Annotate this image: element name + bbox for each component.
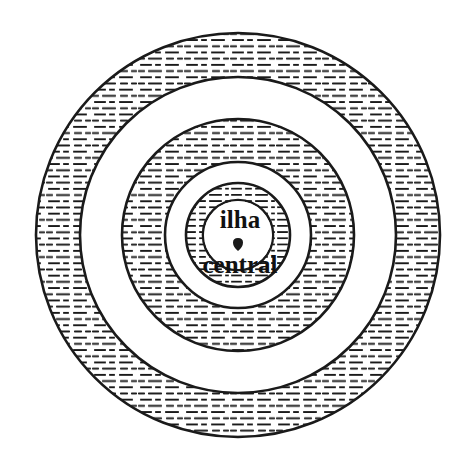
concentric-ring-diagram: ilha central [0, 0, 476, 464]
diagram-canvas: ilha central [0, 0, 476, 464]
center-label-line2: central [203, 251, 278, 278]
center-label-line1: ilha [220, 206, 261, 233]
